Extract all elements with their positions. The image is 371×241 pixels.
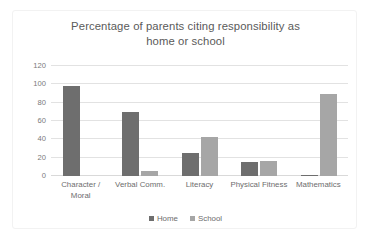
legend-swatch-icon bbox=[190, 216, 195, 221]
bar-group bbox=[289, 66, 348, 176]
x-axis-label-line: Verbal Comm. bbox=[110, 180, 169, 191]
y-axis-tick-label: 20 bbox=[38, 152, 46, 161]
bar-school[interactable] bbox=[201, 137, 218, 176]
bar-school[interactable] bbox=[260, 161, 277, 176]
bar-school[interactable] bbox=[320, 94, 337, 176]
bar-school[interactable] bbox=[141, 171, 158, 176]
bar-group bbox=[51, 66, 110, 176]
x-axis-label: Verbal Comm. bbox=[110, 180, 169, 191]
x-axis-label-line: Moral bbox=[51, 191, 110, 202]
x-axis-label-line: Character / bbox=[51, 180, 110, 191]
bar-group bbox=[229, 66, 288, 176]
y-axis-tick-label: 120 bbox=[33, 61, 46, 70]
x-axis-label-line: Mathematics bbox=[289, 180, 348, 191]
x-axis-label: Mathematics bbox=[289, 180, 348, 191]
bar-home[interactable] bbox=[241, 162, 258, 176]
legend-label: Home bbox=[157, 214, 178, 223]
y-axis-tick-label: 40 bbox=[38, 134, 46, 143]
x-axis-label: Physical Fitness bbox=[229, 180, 288, 191]
plot-area: 020406080100120 bbox=[51, 66, 348, 176]
bar-group bbox=[170, 66, 229, 176]
x-axis-label: Character /Moral bbox=[51, 180, 110, 201]
chart-container: Percentage of parents citing responsibil… bbox=[12, 10, 357, 229]
bar-home[interactable] bbox=[301, 175, 318, 176]
legend-swatch-icon bbox=[149, 216, 154, 221]
legend-label: School bbox=[198, 214, 222, 223]
x-axis-label-line: Literacy bbox=[170, 180, 229, 191]
bar-group bbox=[110, 66, 169, 176]
legend-item-home[interactable]: Home bbox=[149, 214, 178, 223]
bar-home[interactable] bbox=[63, 86, 80, 176]
y-axis-tick-label: 0 bbox=[42, 171, 46, 180]
x-axis-label-line: Physical Fitness bbox=[229, 180, 288, 191]
chart-title-line-2: home or school bbox=[27, 34, 344, 49]
bars-layer bbox=[51, 66, 348, 176]
y-axis-tick-label: 100 bbox=[33, 79, 46, 88]
chart-title: Percentage of parents citing responsibil… bbox=[27, 19, 344, 49]
y-axis-tick-label: 80 bbox=[38, 97, 46, 106]
x-axis-label: Literacy bbox=[170, 180, 229, 191]
chart-title-line-1: Percentage of parents citing responsibil… bbox=[27, 19, 344, 34]
chart-legend: HomeSchool bbox=[13, 214, 358, 223]
x-axis-category-labels: Character /MoralVerbal Comm.LiteracyPhys… bbox=[51, 180, 348, 210]
bar-home[interactable] bbox=[182, 153, 199, 176]
bar-home[interactable] bbox=[122, 112, 139, 176]
y-axis-tick-label: 60 bbox=[38, 116, 46, 125]
legend-item-school[interactable]: School bbox=[190, 214, 222, 223]
